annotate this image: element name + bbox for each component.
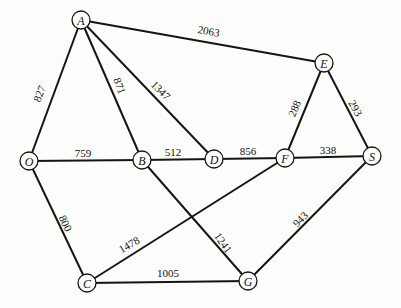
edge-weight-label: 338	[320, 144, 337, 156]
edge-weight-label: 943	[290, 209, 311, 230]
node-f: F	[276, 149, 294, 167]
edge-f-s	[285, 156, 372, 158]
node-label: G	[244, 275, 253, 289]
node-label: B	[138, 154, 146, 168]
edge-weight-label: 800	[57, 213, 75, 234]
node-label: O	[25, 155, 34, 169]
edge-c-g	[87, 281, 248, 283]
node-c: C	[78, 274, 96, 292]
edge-d-f	[214, 158, 285, 159]
graph-diagram: 2063827871134775951285633828829380012411…	[0, 0, 401, 308]
edge-o-b	[29, 160, 142, 161]
edge-weight-label: 871	[111, 76, 128, 96]
edge-weight-label: 1005	[157, 267, 180, 279]
edge-weight-label: 827	[31, 83, 48, 103]
node-label: S	[369, 150, 375, 164]
edge-s-g	[248, 156, 372, 281]
edge-a-b	[81, 20, 142, 160]
edge-weight-label: 1478	[116, 234, 141, 256]
node-a: A	[72, 11, 90, 29]
edge-b-g	[142, 160, 248, 281]
edge-weight-label: 293	[346, 98, 365, 119]
node-d: D	[205, 150, 223, 168]
node-g: G	[239, 272, 257, 290]
edge-f-c	[87, 158, 285, 283]
node-label: E	[319, 57, 328, 71]
node-label: F	[280, 152, 289, 166]
edge-weight-label: 512	[165, 146, 182, 158]
node-b: B	[133, 151, 151, 169]
edge-o-c	[29, 161, 87, 283]
edge-b-d	[142, 159, 214, 160]
node-s: S	[363, 147, 381, 165]
node-e: E	[315, 54, 333, 72]
node-label: D	[209, 153, 219, 167]
node-label: A	[76, 14, 85, 28]
edge-weight-label: 856	[240, 145, 257, 157]
edge-e-s	[324, 63, 372, 156]
edge-weight-label: 2063	[197, 23, 221, 39]
node-label: C	[83, 277, 92, 291]
edge-weight-label: 759	[75, 147, 92, 159]
node-o: O	[20, 152, 38, 170]
edge-weight-label: 1347	[149, 78, 173, 102]
edge-weight-label: 288	[286, 98, 304, 118]
